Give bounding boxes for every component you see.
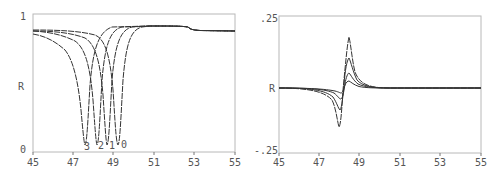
curve-label-0: 0 [121, 139, 127, 150]
right-y-tick-bottom: -.25 [254, 145, 278, 156]
left-x-tick-47: 47 [67, 157, 79, 168]
left-plot: 45 47 49 51 53 55 1 0 R 3 2 1 0 [18, 11, 241, 168]
left-x-tick-55: 55 [229, 157, 241, 168]
curve-0 [33, 26, 235, 145]
derivative-curve-c [279, 73, 481, 99]
left-x-tick-53: 53 [188, 157, 200, 168]
figure: 45 47 49 51 53 55 1 0 R 3 2 1 0 [0, 0, 503, 174]
derivative-curve-b [279, 58, 481, 110]
right-plot-frame [279, 16, 481, 153]
right-x-tick-53: 53 [434, 157, 446, 168]
right-x-tick-51: 51 [394, 157, 406, 168]
left-curves [33, 26, 235, 145]
left-y-tick-1: 1 [20, 11, 26, 22]
left-y-axis-label: R [18, 81, 25, 92]
left-x-tick-49: 49 [107, 157, 119, 168]
curve-label-1: 1 [109, 140, 115, 151]
right-y-axis-label: R [269, 83, 276, 94]
right-y-tick-top: .25 [260, 13, 278, 24]
left-plot-frame [33, 14, 235, 152]
right-plot: 45 47 49 51 53 55 .25 -.25 R [254, 13, 487, 168]
curve-1 [33, 26, 235, 145]
right-x-tick-45: 45 [273, 157, 285, 168]
curve-label-2: 2 [98, 140, 104, 151]
curve-3 [33, 26, 235, 145]
curve-2 [33, 26, 235, 145]
right-x-tick-47: 47 [313, 157, 325, 168]
derivative-curve-a [279, 37, 481, 127]
right-x-tick-49: 49 [353, 157, 365, 168]
left-x-tick-45: 45 [27, 157, 39, 168]
right-curves [279, 37, 481, 127]
right-x-tick-55: 55 [475, 157, 487, 168]
left-x-tick-51: 51 [148, 157, 160, 168]
curve-label-3: 3 [84, 141, 90, 152]
left-y-tick-0: 0 [20, 144, 26, 155]
derivative-curve-d [279, 81, 481, 93]
